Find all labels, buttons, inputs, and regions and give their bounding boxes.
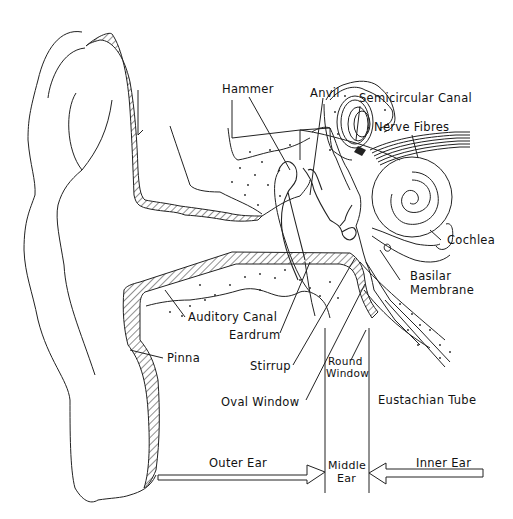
label-anvil: Anvil [310,87,340,100]
pinna-outline [24,32,156,502]
upper-canal-wall [86,33,262,221]
label-auditory-canal: Auditory Canal [188,311,277,324]
region-middle: Middle [328,459,366,472]
label-pinna: Pinna [167,352,200,365]
region-outer-ear: Outer Ear [209,457,267,470]
label-membrane: Membrane [410,284,474,297]
nerve-fibres [370,132,470,165]
anvil-bone [303,168,342,232]
concha-upper-line [170,126,262,214]
region-middle-ear: Ear [337,472,356,485]
helix-inner [48,48,85,98]
label-hammer: Hammer [222,83,274,96]
antihelix [57,93,95,375]
temporal-bone-mid [262,180,310,216]
label-cochlea: Cochlea [447,234,495,247]
label-nerve-fibres: Nerve Fibres [374,121,449,134]
antihelix-2 [82,100,112,170]
label-semicircular-canal: Semicircular Canal [359,92,472,105]
middle-ear-cavity [275,128,350,292]
label-oval-window: Oval Window [221,396,299,409]
ear-diagram [0,0,513,519]
label-eardrum: Eardrum [229,329,280,342]
label-stirrup: Stirrup [250,360,291,373]
label-eustachian-tube: Eustachian Tube [378,394,476,407]
region-inner-ear: Inner Ear [416,457,471,470]
label-basilar: Basilar [410,270,451,283]
label-window: Window [326,367,369,380]
stirrup-bone [340,205,356,240]
